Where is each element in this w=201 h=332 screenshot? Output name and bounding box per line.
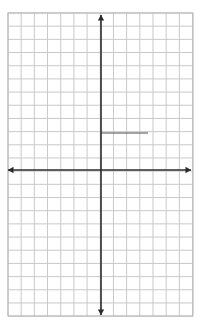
graph-canvas (0, 0, 201, 332)
coordinate-graph (0, 0, 201, 332)
